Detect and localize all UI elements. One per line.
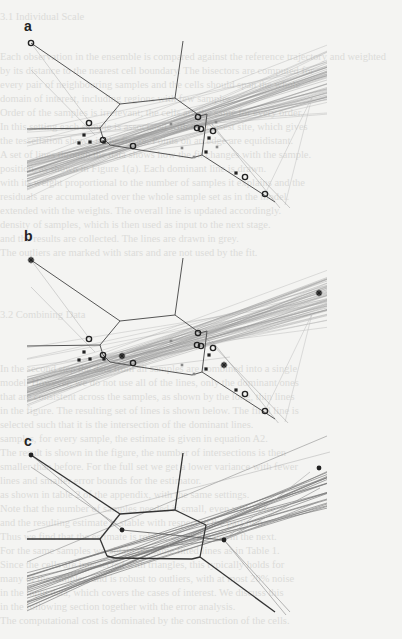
square-marker-icon (88, 140, 91, 143)
star-marker-icon (221, 362, 227, 368)
small-marker-icon (170, 340, 173, 343)
star-marker-icon (28, 257, 34, 263)
square-marker-icon (234, 388, 237, 391)
square-marker-icon (82, 350, 85, 353)
dot-marker-icon (317, 466, 322, 471)
fitted-lines (27, 43, 327, 208)
figure-panel-c (0, 412, 402, 627)
square-marker-icon (207, 136, 210, 139)
small-marker-icon (193, 373, 196, 376)
square-marker-icon (207, 353, 210, 356)
star-marker-icon (316, 290, 322, 296)
figure-panel-a (0, 0, 402, 215)
dot-marker-icon (29, 453, 34, 458)
small-marker-icon (193, 156, 196, 159)
square-marker-icon (234, 171, 237, 174)
circle-marker-icon (242, 174, 247, 179)
small-marker-icon (170, 123, 173, 126)
dot-marker-icon (222, 538, 227, 543)
small-marker-icon (181, 364, 184, 367)
square-marker-icon (88, 357, 91, 360)
square-marker-icon (102, 140, 105, 143)
square-marker-icon (82, 133, 85, 136)
voronoi-edges (27, 258, 275, 419)
circle-marker-icon (210, 345, 215, 350)
square-marker-icon (77, 358, 80, 361)
fitted-lines (27, 260, 327, 423)
square-marker-icon (204, 150, 207, 153)
fitted-lines (27, 436, 330, 615)
figure-panel-b (0, 208, 402, 423)
square-marker-icon (102, 357, 105, 360)
star-marker-icon (119, 353, 125, 359)
dot-marker-icon (120, 528, 125, 533)
circle-marker-icon (86, 336, 91, 341)
square-marker-icon (77, 141, 80, 144)
small-marker-icon (216, 146, 219, 149)
circle-marker-icon (242, 391, 247, 396)
square-marker-icon (204, 367, 207, 370)
small-marker-icon (181, 147, 184, 150)
small-marker-icon (215, 121, 218, 124)
